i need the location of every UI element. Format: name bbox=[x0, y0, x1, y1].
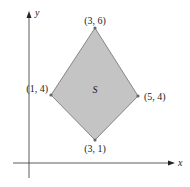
x-axis-arrow-icon bbox=[168, 161, 175, 166]
vertex-point-right bbox=[136, 94, 139, 97]
vertex-label-top: (3, 6) bbox=[84, 15, 106, 27]
vertex-point-bottom bbox=[93, 138, 96, 141]
region-label: S bbox=[93, 84, 98, 95]
vertex-point-left bbox=[49, 93, 52, 96]
vertex-label-right: (5, 4) bbox=[144, 91, 166, 103]
vertex-point-top bbox=[93, 26, 96, 29]
y-axis-label: y bbox=[34, 7, 40, 18]
y-axis-arrow-icon bbox=[27, 11, 32, 18]
vertex-label-bottom: (3, 1) bbox=[84, 143, 106, 155]
vertex-label-left: (1, 4) bbox=[26, 83, 48, 95]
diagram-canvas: x y (3, 6) (5, 4) (3, 1) (1, 4) S bbox=[0, 0, 190, 187]
x-axis-label: x bbox=[177, 157, 183, 168]
